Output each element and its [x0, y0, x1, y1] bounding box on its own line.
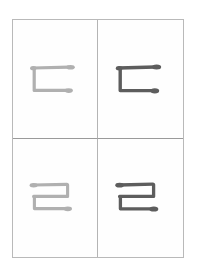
- grid-cell-bottom-left[interactable]: ㄹ: [13, 139, 98, 258]
- grid-cell-top-left[interactable]: ㄷ: [13, 20, 98, 139]
- character-grid: ㄷ ㄷ: [13, 20, 183, 257]
- hangul-rieul-trace-glyph: [25, 174, 83, 222]
- hangul-rieul-model-glyph: [111, 174, 169, 222]
- grid-cell-top-right[interactable]: ㄷ: [98, 20, 183, 139]
- hangul-digeut-trace-glyph: [25, 55, 83, 103]
- worksheet-sheet: ㄷ ㄷ: [12, 19, 184, 258]
- hangul-digeut-model-glyph: [111, 55, 169, 103]
- grid-cell-bottom-right[interactable]: ㄹ: [98, 139, 183, 258]
